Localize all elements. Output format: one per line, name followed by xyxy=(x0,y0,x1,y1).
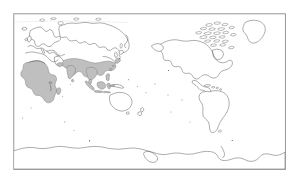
islet-indian-ocean-1 xyxy=(64,122,65,123)
islet-atlantic-2 xyxy=(22,118,23,119)
islet-hawaii xyxy=(168,70,169,71)
islet-pacific-6 xyxy=(182,100,183,101)
islet-pacific-3 xyxy=(128,79,129,80)
islet-maldives xyxy=(70,84,71,85)
island-severnaya-zemlya xyxy=(74,18,79,20)
island-lesser-sunda xyxy=(103,91,110,92)
coastline-tasmania xyxy=(126,112,129,115)
islet-indian-ocean-2 xyxy=(74,130,75,131)
islet-atlantic-1 xyxy=(31,108,32,109)
islet-mascarene xyxy=(62,96,63,97)
islet-south-atlantic xyxy=(89,140,90,141)
islet-pacific-4 xyxy=(155,84,156,85)
world-distribution-map-figure xyxy=(0,0,298,181)
range-arabia-south xyxy=(57,63,63,67)
coastline-new-zealand xyxy=(141,108,144,112)
island-taiwan xyxy=(110,68,112,71)
island-new-siberian xyxy=(96,18,101,20)
islet-pacific-8 xyxy=(190,122,191,123)
island-philippines xyxy=(106,74,110,81)
islet-pacific-1 xyxy=(137,86,138,87)
island-sri-lanka xyxy=(71,79,73,82)
coastline-new-zealand-south xyxy=(138,112,142,116)
island-java xyxy=(95,91,103,93)
islet-pacific-7 xyxy=(171,112,172,113)
coastline-iceland xyxy=(22,27,26,30)
islet-south-georgia xyxy=(232,140,233,141)
island-franz-josef xyxy=(51,18,56,20)
islet-pacific-2 xyxy=(146,92,147,93)
map-canvas xyxy=(0,0,298,181)
coastline-ireland xyxy=(25,38,27,41)
islet-pacific-5 xyxy=(168,95,169,96)
